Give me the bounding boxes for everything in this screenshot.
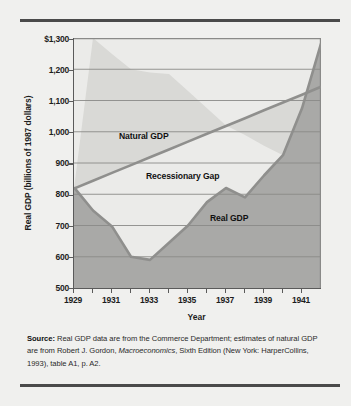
x-tick-mark <box>263 288 264 293</box>
x-tick-mark <box>73 288 74 293</box>
chart-svg <box>74 38 321 288</box>
chart: Real GDP (billions of 1987 dollars) $1,3… <box>0 26 351 326</box>
x-tick-mark <box>92 288 93 293</box>
y-tick-label: 600 <box>13 252 69 262</box>
figure-container: Real GDP (billions of 1987 dollars) $1,3… <box>0 0 351 406</box>
natural-gdp-label: Natural GDP <box>119 131 169 141</box>
y-tick-label: 500 <box>13 283 69 293</box>
x-tick-mark <box>149 288 150 293</box>
y-tick-label: 800 <box>13 189 69 199</box>
x-tick-label: 1941 <box>279 295 323 305</box>
y-tick-label: 1,100 <box>13 96 69 106</box>
source-note: Source: Real GDP data are from the Comme… <box>27 333 327 370</box>
x-tick-mark <box>206 288 207 293</box>
plot-area: Natural GDP Recessionary Gap Real GDP <box>73 38 321 289</box>
bottom-rule <box>20 384 340 387</box>
x-tick-mark <box>168 288 169 293</box>
x-tick-mark <box>225 288 226 293</box>
x-tick-mark <box>187 288 188 293</box>
recessionary-gap-label: Recessionary Gap <box>146 171 219 181</box>
y-tick-label: 700 <box>13 221 69 231</box>
y-tick-label: 900 <box>13 158 69 168</box>
x-tick-mark <box>244 288 245 293</box>
x-tick-mark <box>301 288 302 293</box>
x-tick-mark <box>130 288 131 293</box>
x-tick-mark <box>111 288 112 293</box>
y-tick-label: $1,300 <box>13 34 69 44</box>
real-gdp-label: Real GDP <box>210 213 248 223</box>
x-axis-title: Year <box>73 312 320 322</box>
x-tick-mark <box>282 288 283 293</box>
source-lead: Source: <box>27 334 55 343</box>
y-tick-label: 1,000 <box>13 127 69 137</box>
source-book-title: Macroeconomics <box>119 346 176 355</box>
y-tick-label: 1,200 <box>13 65 69 75</box>
top-rule <box>20 19 340 22</box>
